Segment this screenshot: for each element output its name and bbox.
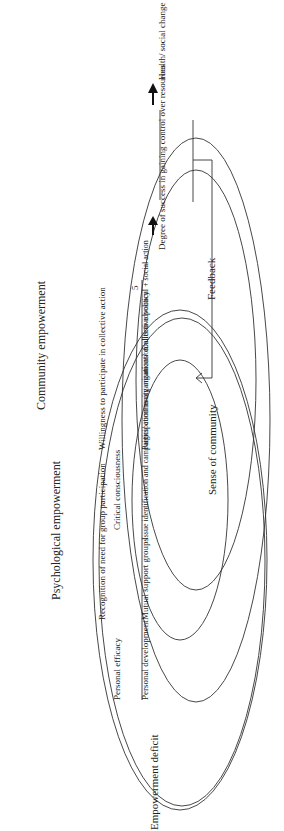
stage-4-top: Willingness to participate in collective… (97, 287, 107, 450)
psych-label: Psychological empowerment (49, 460, 63, 600)
stage-2-top: Recognition of need for group participat… (97, 463, 107, 620)
sense-label: Sense of community (206, 404, 218, 495)
feedback-label: Feedback (205, 257, 217, 300)
stage-1-bottom: Personal development (140, 620, 150, 700)
stage-3-top: Critical consciousness (112, 449, 122, 530)
outcome-label: Health/ social change (157, 3, 167, 80)
stage-5-number: 5 (130, 285, 140, 290)
psychological-ellipse-inner (99, 318, 265, 806)
diagram-canvas: Empowerment deficit Psychological empowe… (0, 0, 284, 831)
stage-5-bottom: Collective political + social action (141, 240, 150, 350)
empowerment-deficit-label: Empowerment deficit (148, 734, 160, 830)
stage-1-top: Personal efficacy (112, 637, 122, 700)
success-label: Degree of success in gaining control ove… (157, 64, 167, 250)
stage-2-bottom: Mutual support groups (140, 538, 150, 620)
empowerment-diagram: Empowerment deficit Psychological empowe… (0, 0, 284, 831)
community-label: Community empowerment (34, 280, 48, 410)
